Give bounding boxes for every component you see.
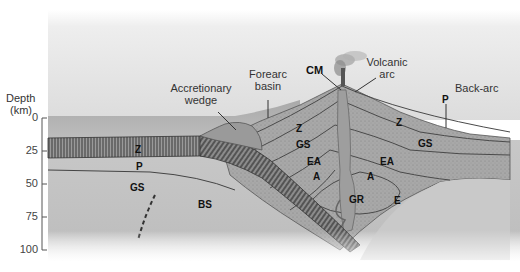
label-cm: CM <box>306 64 323 76</box>
zone-z-backarc: Z <box>396 118 402 128</box>
zone-gs-slab: GS <box>130 183 144 193</box>
zone-a-left: A <box>313 172 320 182</box>
zone-ea-right: EA <box>380 157 394 167</box>
tick-75: 75 <box>2 211 38 222</box>
label-forearc-basin-2: basin <box>246 80 290 92</box>
zone-bs: BS <box>198 200 212 210</box>
axis-title-depth: Depth <box>6 92 35 104</box>
tick-100: 100 <box>2 244 38 255</box>
tick-25: 25 <box>2 145 38 156</box>
label-back-arc: Back-arc <box>455 82 498 94</box>
label-accretionary-wedge-1: Accretionary <box>166 82 236 94</box>
zone-gs-forearc: GS <box>296 140 310 150</box>
zone-z-forearc: Z <box>296 124 302 134</box>
bottom-fade <box>48 230 520 272</box>
zone-a-right: A <box>367 172 374 182</box>
tick-50: 50 <box>2 178 38 189</box>
zone-ea-left: EA <box>307 157 321 167</box>
label-forearc-basin-1: Forearc <box>246 68 290 80</box>
zone-p-slab: P <box>136 162 143 172</box>
sky-background <box>48 10 520 120</box>
subduction-zone-diagram: Depth (km) 0 25 50 75 100 Accretionary w… <box>0 0 520 272</box>
label-volcanic-arc-2: arc <box>362 68 412 80</box>
zone-gr: GR <box>349 195 364 205</box>
label-accretionary-wedge-2: wedge <box>166 94 236 106</box>
tick-0: 0 <box>2 112 38 123</box>
label-volcanic-arc-1: Volcanic <box>362 56 412 68</box>
depth-axis <box>42 118 47 250</box>
cross-section-illustration <box>0 0 520 272</box>
zone-gs-backarc: GS <box>418 139 432 149</box>
label-p-backarc: P <box>442 95 449 105</box>
zone-e: E <box>394 196 401 206</box>
zone-z-slab: Z <box>135 145 141 155</box>
